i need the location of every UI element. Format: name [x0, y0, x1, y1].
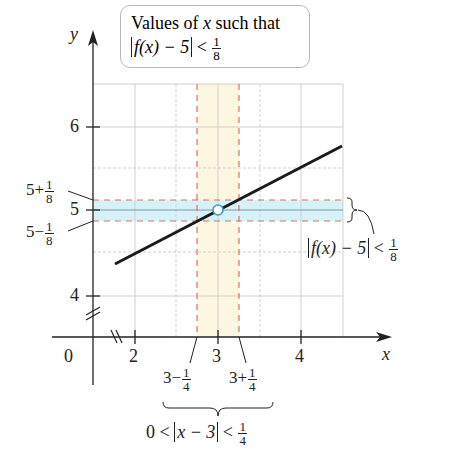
- x-tick-3: 3: [212, 346, 221, 367]
- fraction: 18: [45, 178, 54, 205]
- frac-den: 4: [183, 380, 190, 393]
- frac-num: 1: [212, 35, 221, 49]
- op: <: [218, 422, 237, 442]
- frac-den: 8: [46, 192, 53, 205]
- origin-label: 0: [64, 346, 73, 367]
- y-axis-label: y: [70, 24, 78, 45]
- y-tick-6: 6: [70, 116, 79, 137]
- ticks: [86, 127, 301, 344]
- frac-num: 1: [182, 366, 191, 380]
- callout-line-2: f(x) − 5 < 18: [131, 34, 309, 62]
- fraction: 14: [182, 366, 191, 393]
- x-tick-4: 4: [295, 346, 304, 367]
- frac-den: 8: [46, 234, 53, 247]
- frac-den: 8: [213, 49, 220, 62]
- frac-den: 4: [249, 380, 256, 393]
- frac-num: 1: [45, 178, 54, 192]
- abs-expr: x − 3: [174, 422, 218, 442]
- x-tick-2: 2: [129, 346, 138, 367]
- abs-expr: f(x) − 5: [308, 238, 369, 258]
- delta-annotation: 0 < x − 3 < 14: [146, 420, 247, 447]
- label-3-minus-quarter: 3−14: [163, 366, 191, 393]
- callout-text: Values of: [131, 13, 203, 33]
- label-3-plus-quarter: 3+14: [229, 366, 257, 393]
- prefix: 0 <: [146, 422, 174, 442]
- y-tick-4: 4: [70, 285, 79, 306]
- label-5-plus-eighth: 5+18: [26, 178, 54, 205]
- label-prefix: 3+: [229, 368, 247, 387]
- epsilon-annotation: f(x) − 5 < 18: [308, 236, 398, 263]
- limit-definition-diagram: Values of x such that f(x) − 5 < 18 y x …: [0, 0, 457, 459]
- fraction: 18: [45, 220, 54, 247]
- fraction: 14: [248, 366, 257, 393]
- frac-num: 1: [248, 366, 257, 380]
- callout-abs-expr: f(x) − 5: [131, 37, 192, 57]
- label-prefix: 5+: [26, 180, 44, 199]
- x-axis-label: x: [382, 344, 390, 365]
- callout-text: such that: [211, 13, 280, 33]
- frac-num: 1: [238, 420, 247, 434]
- callout-line-1: Values of x such that: [131, 12, 309, 34]
- label-5-minus-eighth: 5−18: [26, 220, 54, 247]
- op: <: [369, 238, 388, 258]
- frac-num: 1: [45, 220, 54, 234]
- label-prefix: 5−: [26, 222, 44, 241]
- callout-var: x: [203, 13, 211, 33]
- open-point: [213, 205, 223, 215]
- callout-op: <: [192, 37, 211, 57]
- callout-fraction: 18: [212, 35, 221, 62]
- y-tick-5: 5: [70, 199, 79, 220]
- callout-box: Values of x such that f(x) − 5 < 18: [120, 5, 310, 68]
- fraction: 14: [238, 420, 247, 447]
- frac-den: 4: [239, 434, 246, 447]
- frac-den: 8: [390, 250, 397, 263]
- label-prefix: 3−: [163, 368, 181, 387]
- frac-num: 1: [389, 236, 398, 250]
- fraction: 18: [389, 236, 398, 263]
